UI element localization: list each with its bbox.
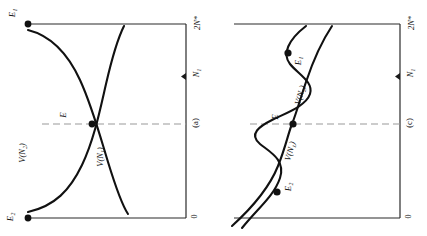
panel-c-marker-e — [289, 120, 296, 127]
panel-c-curve-monotonic — [232, 26, 332, 226]
panel-a-label-vn2: V(N₂) — [17, 143, 27, 162]
panel-c-tick-label-zero: 0 — [404, 215, 413, 219]
panel-c-tick-n1 — [395, 73, 400, 80]
panel-c-tick-label-2nstar: 2N* — [406, 16, 416, 30]
panel-c-caption: (c) — [404, 118, 414, 127]
panel-a: E₁ E E₂ V(N₂) V(N₁) 0 N₁ 2N* (a) — [0, 0, 213, 236]
panel-a-tick-n1 — [181, 73, 186, 80]
panel-a-tick-label-2nstar: 2N* — [192, 16, 202, 30]
panel-a-marker-e — [89, 121, 96, 128]
panel-a-label-e2: E₂ — [5, 213, 15, 222]
panel-a-label-vn1: V(N₁) — [95, 147, 105, 166]
panel-c-marker-e2 — [273, 188, 280, 195]
panel-a-plot — [0, 0, 213, 236]
panel-c: E₁ E E₂ V(N₂) V(N₁) 0 N₁ 2N* (c) — [214, 0, 427, 236]
panel-a-marker-e1 — [25, 21, 32, 28]
panel-a-tick-label-zero: 0 — [190, 215, 199, 219]
panel-c-label-e2: E₂ — [283, 183, 293, 192]
figure-root: E₁ E E₂ V(N₂) V(N₁) 0 N₁ 2N* (a) — [0, 0, 427, 236]
panel-c-label-e: E — [270, 114, 280, 120]
panel-a-caption: (a) — [190, 118, 200, 127]
panel-c-label-e1: E₁ — [293, 57, 303, 66]
panel-a-curve-vn2 — [28, 26, 124, 212]
panel-c-marker-e1 — [284, 49, 291, 56]
panel-a-label-e1: E₁ — [7, 9, 17, 18]
panel-a-tick-label-n1: N₁ — [191, 69, 201, 78]
panel-a-marker-e2 — [25, 215, 32, 222]
panel-a-label-e: E — [58, 112, 68, 118]
panel-c-plot — [214, 0, 427, 236]
panel-c-tick-label-n1: N₁ — [405, 69, 415, 78]
panel-a-axes — [28, 24, 186, 218]
